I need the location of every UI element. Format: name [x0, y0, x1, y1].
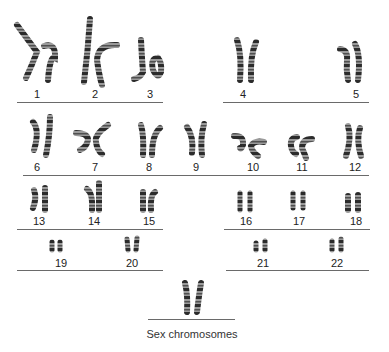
chromosome-label-21: 21	[248, 257, 278, 269]
chromosome-pair-14	[87, 183, 99, 210]
chromosome-label-10: 10	[238, 161, 268, 173]
chromosome-pair-6	[33, 117, 50, 155]
chromosome-label-2: 2	[80, 88, 110, 100]
chromosome-pair-7	[76, 125, 108, 154]
karyotype-figure	[0, 0, 389, 352]
chromosome-pair-9	[187, 124, 204, 155]
chromosome-pair-19	[52, 242, 60, 250]
chromosome-pair-4	[237, 40, 256, 80]
chromosome-label-17: 17	[284, 215, 314, 227]
chromosome-label-11: 11	[287, 161, 317, 173]
chromosome-pair-13	[33, 188, 45, 210]
chromosome-label-19: 19	[46, 257, 76, 269]
chromosome-pair-1	[17, 25, 55, 80]
group-rule-4-5	[223, 102, 369, 103]
chromosome-label-22: 22	[322, 257, 352, 269]
chromosome-label-20: 20	[117, 257, 147, 269]
group-rule-6-12	[23, 175, 369, 176]
chromosome-pair-12	[346, 126, 361, 156]
chromosome-label-12: 12	[340, 161, 370, 173]
chromosome-label-7: 7	[80, 161, 110, 173]
chromosome-pair-16	[240, 193, 250, 210]
chromosome-pair-21	[256, 241, 265, 250]
chromosome-label-4: 4	[228, 88, 258, 100]
chromosome-label-9: 9	[181, 161, 211, 173]
chromosome-label-15: 15	[134, 215, 164, 227]
chromosome-label-18: 18	[341, 215, 371, 227]
chromosome-pair-11	[291, 137, 312, 158]
chromosome-label-6: 6	[22, 161, 52, 173]
chromosome-pair-5	[340, 44, 359, 80]
chromosome-label-8: 8	[134, 161, 164, 173]
chromosome-pair-2	[84, 19, 117, 85]
chromosome-label-13: 13	[24, 215, 54, 227]
group-rule-16-18	[224, 229, 370, 230]
chromosome-pair-8	[141, 125, 160, 155]
chromosome-pair-22	[332, 239, 341, 250]
group-rule-19-20	[17, 270, 163, 271]
chromosome-pair-17	[293, 193, 303, 208]
chromosome-label-16: 16	[231, 215, 261, 227]
chromosome-pair-18	[348, 195, 358, 210]
chromosome-pair-10	[234, 136, 264, 156]
sex-chromosomes-caption: Sex chromosomes	[92, 328, 292, 340]
chromosome-label-5: 5	[341, 88, 371, 100]
group-rule-sex	[148, 319, 235, 320]
chromosome-pair-20	[127, 238, 137, 250]
group-rule-1-3	[17, 102, 163, 103]
group-rule-21-22	[226, 270, 369, 271]
group-rule-13-15	[17, 229, 163, 230]
chromosome-label-3: 3	[135, 88, 165, 100]
chromosome-pair-15	[143, 192, 155, 210]
chromosome-label-1: 1	[22, 88, 52, 100]
sex-chromosome-pair	[185, 283, 201, 312]
chromosome-label-14: 14	[79, 215, 109, 227]
chromosome-pair-3	[134, 40, 161, 79]
